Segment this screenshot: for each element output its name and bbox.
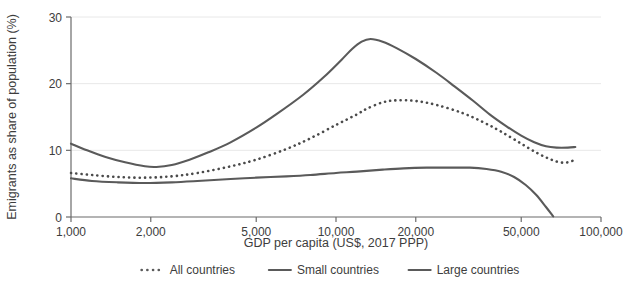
- series-line-small-countries: [71, 39, 575, 167]
- y-tick-label-0: 0: [55, 211, 62, 225]
- legend-label-all-countries: All countries: [170, 263, 235, 277]
- legend-label-small-countries: Small countries: [297, 263, 379, 277]
- x-tick-label-1000: 1,000: [56, 225, 86, 239]
- y-tick-label-20: 20: [49, 77, 63, 91]
- y-tick-label-10: 10: [49, 144, 63, 158]
- emigration-vs-gdp-line-chart: 0102030 1,0002,0005,00010,00020,00050,00…: [0, 0, 631, 291]
- y-tick-label-30: 30: [49, 11, 63, 25]
- chart-container: 0102030 1,0002,0005,00010,00020,00050,00…: [0, 0, 631, 291]
- y-tick-group: 0102030: [49, 11, 71, 225]
- y-axis-title: Emigrants as share of population (%): [5, 14, 19, 220]
- y-axis: 0102030: [49, 11, 71, 225]
- chart-legend: All countriesSmall countriesLarge countr…: [142, 263, 520, 277]
- x-tick-label-50000: 50,000: [503, 225, 540, 239]
- x-tick-label-2000: 2,000: [136, 225, 166, 239]
- gridlines: [71, 17, 601, 150]
- series-group: [71, 39, 575, 216]
- x-axis-title: GDP per capita (US$, 2017 PPP): [244, 236, 429, 250]
- x-tick-label-100000: 100,000: [579, 225, 623, 239]
- legend-label-large-countries: Large countries: [437, 263, 520, 277]
- series-line-large-countries: [71, 168, 553, 217]
